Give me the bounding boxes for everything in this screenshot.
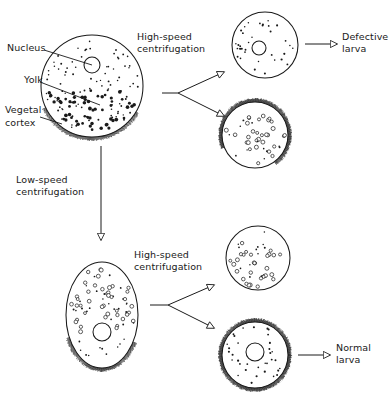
original-egg-granule — [129, 65, 131, 67]
original-egg-granule — [81, 106, 83, 108]
original-egg-granule — [88, 119, 90, 121]
original-egg-granule — [64, 113, 68, 117]
original-egg-cortex — [101, 136, 102, 140]
diagram-svg — [0, 0, 390, 399]
original-egg-cortex — [102, 136, 103, 139]
defective-egg-fragment-granule — [264, 72, 266, 74]
original-egg-granule — [48, 74, 50, 76]
original-egg-granule — [57, 55, 59, 57]
stratified-egg-granule — [101, 287, 105, 291]
original-egg-granule — [59, 101, 62, 104]
label-low-speed-line1: Low-speed — [16, 174, 68, 187]
label-low-speed-line2: centrifugation — [16, 186, 84, 199]
normal-egg-fragment-granule — [271, 359, 273, 361]
defective-egg-fragment-granule — [240, 29, 242, 31]
original-egg-granule — [110, 104, 113, 107]
stratified-egg-granule — [74, 320, 78, 324]
stratified-egg-granule — [99, 347, 101, 349]
yolk-fragment-granule — [232, 262, 236, 266]
normal-egg-fragment-granule — [271, 351, 273, 353]
defective-egg-fragment-granule — [286, 63, 288, 65]
cortex-yolk-fragment-granule — [279, 146, 281, 148]
yolk-fragment-granule — [272, 253, 276, 257]
defective-egg-fragment-granule — [281, 58, 283, 60]
original-egg-granule — [89, 41, 91, 43]
defective-egg-fragment-granule — [271, 54, 273, 56]
defective-egg-fragment-granule — [258, 61, 260, 63]
normal-egg-fragment-granule — [257, 366, 259, 368]
stratified-egg-granule — [79, 304, 82, 307]
stratified-egg-granule — [109, 274, 111, 276]
normal-egg-fragment-granule — [245, 369, 247, 371]
cortex-yolk-fragment-granule — [257, 162, 260, 165]
original-egg-granule — [105, 123, 109, 127]
original-egg-cortex — [104, 136, 105, 139]
defective-egg-fragment-granule — [283, 53, 285, 55]
stratified-egg-granule — [79, 325, 82, 328]
original-egg-granule — [113, 53, 115, 55]
original-egg-cortex — [105, 135, 106, 138]
original-egg-granule — [118, 76, 120, 78]
normal-egg-fragment-granule — [273, 376, 275, 378]
label-defective-larva-line1: Defective — [342, 31, 388, 44]
original-egg-granule — [91, 108, 94, 111]
original-egg-granule — [132, 83, 134, 85]
defective-egg-fragment-granule — [248, 22, 250, 24]
stratified-egg — [66, 262, 138, 372]
normal-egg-fragment-granule — [242, 327, 244, 329]
defective-egg-fragment-granule — [276, 24, 278, 26]
original-egg-granule — [121, 98, 124, 101]
stratified-egg-granule — [110, 295, 113, 298]
stratified-egg-granule — [75, 310, 77, 312]
normal-egg-fragment-granule — [266, 362, 268, 364]
original-egg-granule — [107, 127, 110, 130]
original-egg-granule — [53, 62, 54, 63]
normal-egg-fragment-granule — [237, 342, 239, 344]
cortex-yolk-fragment-membrane — [222, 102, 288, 168]
yolk-fragment-granule — [229, 259, 232, 262]
cortex-yolk-fragment-granule — [246, 141, 250, 145]
cortex-yolk-fragment-granule — [268, 117, 271, 120]
original-egg-granule — [97, 119, 99, 121]
yolk-fragment-granule — [257, 246, 259, 248]
label-high-speed-bottom-line2: centrifugation — [134, 261, 202, 274]
original-egg-granule — [129, 86, 131, 88]
stratified-egg-granule — [123, 297, 126, 300]
stratified-egg-granule — [83, 281, 86, 284]
stratified-egg-granule — [87, 299, 91, 303]
yolk-fragment-granule — [235, 269, 239, 273]
original-egg-granule — [120, 105, 122, 107]
stratified-egg-granule — [100, 305, 104, 309]
original-egg-granule — [83, 101, 87, 105]
original-egg-granule — [126, 105, 130, 109]
original-egg-granule — [86, 49, 88, 51]
stratified-egg-granule — [70, 302, 74, 306]
original-egg-cortex — [102, 136, 103, 140]
stratified-egg-granule — [96, 274, 100, 278]
stratified-egg-granule — [102, 298, 104, 300]
defective-egg-fragment-granule — [237, 44, 239, 46]
yolk-fragment-granule — [245, 282, 248, 285]
defective-egg-fragment-granule — [259, 23, 261, 25]
original-egg-granule — [111, 100, 114, 103]
normal-egg-fragment-nucleus — [246, 343, 264, 361]
original-egg-granule — [108, 80, 110, 82]
stratified-egg-granule — [86, 270, 89, 273]
cortex-yolk-fragment-granule — [247, 135, 251, 139]
original-egg-granule — [110, 84, 112, 86]
original-egg-granule — [81, 122, 84, 125]
stratified-egg-granule — [113, 295, 114, 296]
stratified-egg-granule — [116, 313, 119, 316]
yolk-fragment — [226, 226, 290, 290]
original-egg-cortex — [103, 136, 104, 139]
cortex-yolk-fragment-granule — [261, 140, 265, 144]
yolk-fragment-granule — [270, 273, 274, 277]
cortex-yolk-fragment-granule — [257, 140, 259, 142]
stratified-egg-granule — [127, 286, 130, 289]
original-egg-granule — [75, 66, 77, 68]
original-egg-cortex — [79, 135, 80, 138]
original-egg-granule — [113, 68, 114, 69]
cortex-yolk-fragment-granule — [240, 125, 242, 127]
cortex-yolk-fragment-granule — [247, 116, 250, 119]
original-egg-membrane — [41, 35, 143, 137]
